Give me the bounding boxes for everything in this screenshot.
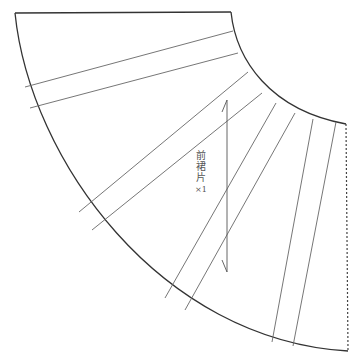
panel-line — [79, 72, 248, 212]
top-edge — [15, 12, 231, 13]
fold-line — [346, 124, 348, 351]
panel-line — [30, 53, 238, 108]
piece-quantity: ×1 — [195, 184, 207, 195]
waist-curve — [231, 12, 346, 124]
hem-curve — [15, 13, 348, 351]
panel-line — [92, 93, 262, 230]
panel-lines — [25, 31, 336, 346]
piece-label-char-3: 片 — [196, 172, 206, 183]
panel-line — [272, 119, 313, 342]
pattern-piece-diagram — [0, 0, 361, 361]
grainline-arrow-icon — [222, 100, 227, 272]
piece-label-char-1: 前 — [196, 150, 206, 161]
piece-label-char-2: 裙 — [196, 161, 206, 172]
panel-line — [25, 31, 233, 87]
piece-label: 前 裙 片 ×1 — [193, 150, 209, 195]
panel-line — [165, 103, 276, 298]
panel-line — [293, 122, 336, 346]
panel-line — [185, 113, 295, 310]
